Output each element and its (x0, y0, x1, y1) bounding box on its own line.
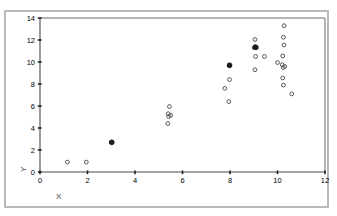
scatter-data-points (65, 24, 293, 164)
x-tick-label: 6 (180, 176, 184, 185)
data-point-open (253, 68, 257, 72)
data-point-open (254, 55, 258, 59)
data-point-filled (253, 45, 258, 50)
data-point-open (84, 160, 88, 164)
data-point-open (276, 61, 280, 65)
x-axis-title: X (56, 192, 62, 201)
plot-frame-border (40, 18, 325, 172)
y-tick-label: 6 (31, 102, 35, 111)
scatter-plot-canvas: 02468101214 024681012 X Y (0, 0, 337, 216)
x-tick-label: 0 (38, 176, 42, 185)
data-point-open (281, 54, 285, 58)
data-point-open (65, 160, 69, 164)
data-point-open (290, 92, 294, 96)
x-tick-label: 10 (273, 176, 281, 185)
data-point-open (253, 38, 257, 42)
y-tick-label: 2 (31, 146, 35, 155)
y-axis-tick-labels: 02468101214 (27, 14, 35, 177)
y-tick-label: 12 (27, 36, 35, 45)
y-tick-label: 0 (31, 168, 35, 177)
plot-frame (40, 18, 325, 172)
data-point-filled (109, 140, 114, 145)
data-point-open (166, 122, 170, 126)
x-tick-label: 2 (85, 176, 89, 185)
data-point-open (227, 100, 231, 104)
data-point-open (228, 78, 232, 82)
data-point-open (281, 76, 285, 80)
y-tick-label: 14 (27, 14, 35, 23)
data-point-open (282, 24, 286, 28)
data-point-open (282, 35, 286, 39)
y-tick-label: 10 (27, 58, 35, 67)
data-point-open (282, 43, 286, 47)
data-point-open (263, 55, 267, 59)
x-axis-tick-labels: 024681012 (38, 176, 329, 185)
x-tick-label: 12 (321, 176, 329, 185)
y-tick-label: 8 (31, 80, 35, 89)
scatter-plot-figure: 02468101214 024681012 X Y (0, 0, 337, 216)
data-point-filled (227, 63, 232, 68)
data-point-open (223, 87, 227, 91)
x-tick-label: 4 (133, 176, 137, 185)
data-point-open (282, 83, 286, 87)
x-tick-label: 8 (228, 176, 232, 185)
y-axis-title: Y (19, 166, 28, 172)
data-point-open (168, 105, 172, 109)
y-tick-label: 4 (31, 124, 35, 133)
